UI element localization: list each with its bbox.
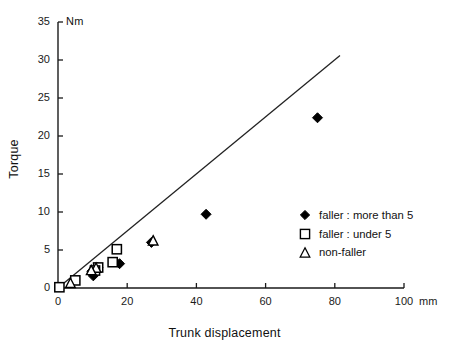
legend-label: faller : more than 5 (319, 206, 413, 225)
x-tick-label: 0 (33, 295, 83, 307)
open-triangle-icon (296, 245, 314, 259)
legend-label: non-faller (319, 243, 366, 262)
x-tick-label: 20 (102, 295, 152, 307)
chart-legend: faller : more than 5faller : under 5non-… (296, 206, 413, 262)
x-tick-label: 80 (310, 295, 360, 307)
y-tick-label: 30 (14, 53, 50, 65)
legend-item: faller : under 5 (296, 225, 413, 244)
y-tick-label: 10 (14, 205, 50, 217)
legend-label: faller : under 5 (319, 225, 391, 244)
legend-item: faller : more than 5 (296, 206, 413, 225)
x-tick-label: 40 (171, 295, 221, 307)
data-point (55, 283, 64, 292)
data-point (201, 209, 211, 219)
y-tick-label: 5 (14, 243, 50, 255)
scatter-chart: 05101520253035020406080100mm Nm Trunk di… (0, 0, 449, 345)
x-axis-unit-label: mm (419, 295, 437, 307)
x-tick-label: 60 (241, 295, 291, 307)
data-points (55, 113, 323, 292)
x-axis-title: Trunk displacement (0, 326, 449, 340)
y-axis-title: Torque (7, 119, 21, 199)
y-tick-label: 0 (14, 281, 50, 293)
data-point (313, 113, 323, 123)
y-tick-label: 35 (14, 15, 50, 27)
legend-item: non-faller (296, 243, 413, 262)
y-axis-unit-label: Nm (66, 15, 84, 27)
filled-diamond-icon (296, 208, 314, 222)
open-square-icon (296, 227, 314, 241)
data-point (112, 245, 121, 254)
chart-canvas (0, 0, 449, 345)
data-point (108, 258, 117, 267)
y-tick-label: 25 (14, 91, 50, 103)
